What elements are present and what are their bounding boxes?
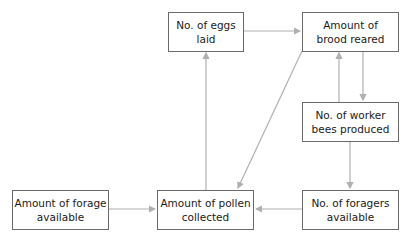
node-label-line: No. of foragers: [311, 196, 389, 210]
node-label-line: No. of worker: [312, 108, 390, 122]
node-label-line: Amount of: [317, 18, 385, 32]
node-label-line: collected: [160, 210, 250, 224]
node-label-line: Amount of forage: [14, 196, 106, 210]
node-label-line: available: [14, 210, 106, 224]
node-pollen-collected: Amount of pollencollected: [157, 190, 254, 230]
node-foragers-available: No. of foragersavailable: [302, 190, 399, 230]
node-eggs-laid: No. of eggslaid: [168, 12, 244, 52]
node-label-line: brood reared: [317, 32, 385, 46]
edge-brood-to-pollen: [238, 51, 302, 188]
node-label-line: bees produced: [312, 122, 390, 136]
node-worker-bees-produced: No. of workerbees produced: [302, 102, 399, 142]
node-label-line: laid: [176, 32, 236, 46]
node-label-line: available: [311, 210, 389, 224]
node-forage-available: Amount of forageavailable: [12, 190, 109, 230]
node-label-line: Amount of pollen: [160, 196, 250, 210]
node-label-line: No. of eggs: [176, 18, 236, 32]
node-brood-reared: Amount ofbrood reared: [302, 12, 399, 52]
